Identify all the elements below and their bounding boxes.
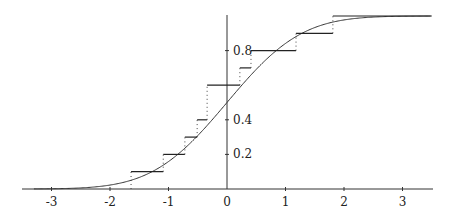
x-tick-label: -3: [46, 195, 58, 209]
ecdf-step-function: [131, 16, 432, 189]
ecdf-vs-normal-cdf-chart: -3-2-101230.20.40.8: [0, 0, 454, 219]
x-tick-label: -2: [104, 195, 116, 209]
y-tick-label: 0.2: [233, 147, 252, 161]
x-tick-label: 1: [282, 195, 290, 209]
x-tick-label: 3: [399, 195, 407, 209]
normal-cdf-path: [34, 16, 431, 189]
y-tick-label: 0.8: [233, 44, 252, 58]
y-tick-label: 0.4: [233, 113, 252, 127]
plot-area: -3-2-101230.20.40.8: [0, 0, 454, 219]
normal-cdf-curve: [34, 16, 431, 189]
x-tick-label: 0: [223, 195, 231, 209]
x-tick-label: 2: [340, 195, 348, 209]
x-tick-label: -1: [163, 195, 175, 209]
tick-labels: -3-2-101230.20.40.8: [46, 44, 407, 209]
